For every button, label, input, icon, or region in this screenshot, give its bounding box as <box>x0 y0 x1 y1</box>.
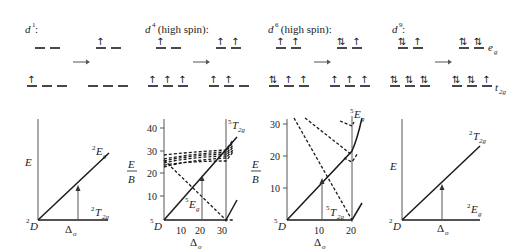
svg-text:10: 10 <box>147 191 157 202</box>
spin-up-icon: ↑ <box>156 36 164 47</box>
svg-text:D: D <box>392 220 401 232</box>
spin-up-icon: ↑ <box>291 36 299 47</box>
spin-pair-icon: ⇅ <box>398 36 406 47</box>
spin-up-icon: ↑ <box>360 74 368 85</box>
orbital-diagram-d4: ↑ ↑ ↑ ↑ ↑ ↑ ↑ ↑ <box>148 36 249 86</box>
arrow-head-icon <box>440 184 445 190</box>
svg-text:2g: 2g <box>479 137 487 145</box>
svg-text:T: T <box>330 206 337 218</box>
svg-text:10: 10 <box>270 183 280 194</box>
arrow-head-icon <box>76 185 81 191</box>
spin-pair-icon: ⇅ <box>405 74 413 85</box>
spin-up-icon: ↑ <box>148 74 156 85</box>
svg-text:30: 30 <box>217 225 227 236</box>
svg-text::: : <box>402 23 405 35</box>
svg-text:E: E <box>188 198 196 210</box>
svg-text:E: E <box>95 145 103 157</box>
spin-up-icon: ↑ <box>27 74 35 85</box>
spin-up-icon: ↑ <box>209 74 217 85</box>
config-label-d6: d 6 (high spin): <box>268 21 332 36</box>
spin-pair-icon: ⇅ <box>459 36 467 47</box>
spin-pair-icon: ⇅ <box>452 74 460 85</box>
spin-up-icon: ↑ <box>330 74 338 85</box>
energy-diagram-d9: E 2 D 2 T 2g 2 E g Δ o <box>389 119 487 237</box>
svg-text:d: d <box>25 23 31 35</box>
svg-text:D: D <box>29 220 38 232</box>
svg-text:o: o <box>73 230 77 238</box>
svg-text:10: 10 <box>176 225 186 236</box>
svg-text:g: g <box>478 210 482 218</box>
eg-label: e <box>488 41 493 53</box>
orbital-diagram-d6: ↑ ↑ ⇅ ↑ ↑ ⇅ ↑ ↑ ↑ ↑ <box>269 36 370 86</box>
svg-text:g: g <box>103 152 107 160</box>
svg-text:Δ: Δ <box>190 236 197 248</box>
spin-up-icon: ↑ <box>224 74 232 85</box>
orbital-diagram-d9: ⇅ ↑ ⇅ ⇅ ⇅ ⇅ ⇅ e g ⇅ ⇅ ↑ t 2g <box>390 36 507 96</box>
svg-text:10: 10 <box>314 225 324 236</box>
spin-up-icon: ↑ <box>352 36 360 47</box>
svg-text:Δ: Δ <box>65 223 72 235</box>
svg-text:2g: 2g <box>102 213 110 221</box>
config-label-d9: d 9 : <box>392 21 405 35</box>
svg-text:E: E <box>127 158 135 170</box>
arrow-head-icon <box>86 60 90 65</box>
spin-pair-icon: ⇅ <box>269 74 277 85</box>
spin-up-icon: ↑ <box>299 74 307 85</box>
svg-text:2g: 2g <box>238 126 246 134</box>
orbital-diagram-d1: ↑ ↑ <box>27 36 128 86</box>
svg-text:20: 20 <box>195 225 205 236</box>
energy-diagram-d6: 10 20 30 E B 10 20 Δ o 5 D 5 E g 5 T 2g <box>251 107 365 251</box>
svg-text:d: d <box>145 23 151 35</box>
svg-text:d: d <box>392 23 398 35</box>
svg-text:Δ: Δ <box>314 236 321 248</box>
svg-text:D: D <box>153 220 162 232</box>
svg-text:D: D <box>277 220 286 232</box>
svg-text:o: o <box>445 229 449 237</box>
svg-text:Δ: Δ <box>437 222 444 234</box>
arrow-head-icon <box>206 60 210 65</box>
svg-text:B: B <box>252 173 259 185</box>
svg-text:E: E <box>251 158 259 170</box>
svg-text:E: E <box>24 156 32 168</box>
svg-text:g: g <box>494 48 498 56</box>
arrow-head-icon <box>327 60 331 65</box>
spin-up-icon: ↑ <box>345 74 353 85</box>
svg-text:E: E <box>470 203 478 215</box>
svg-text:o: o <box>322 243 326 251</box>
svg-text:2g: 2g <box>499 88 507 96</box>
spin-up-icon: ↑ <box>216 36 224 47</box>
spin-up-icon: ↑ <box>284 74 292 85</box>
svg-text:g: g <box>196 205 200 213</box>
spin-pair-icon: ⇅ <box>420 74 428 85</box>
5Eg-line <box>287 118 362 220</box>
energy-diagram-d1: E 2 D 2 E g 2 T 2g Δ o <box>24 119 110 238</box>
spin-pair-icon: ⇅ <box>467 74 475 85</box>
spin-up-icon: ↑ <box>178 74 186 85</box>
spin-up-icon: ↑ <box>231 36 239 47</box>
svg-text:E: E <box>389 160 397 172</box>
spin-up-icon: ↑ <box>163 74 171 85</box>
svg-text:30: 30 <box>270 119 280 130</box>
svg-text:30: 30 <box>147 146 157 157</box>
svg-text:d: d <box>268 23 274 35</box>
arrow-head-icon <box>448 60 452 65</box>
svg-text:B: B <box>128 173 135 185</box>
svg-text:2g: 2g <box>337 213 345 221</box>
svg-text::: : <box>35 23 38 35</box>
svg-text:(high spin):: (high spin): <box>155 23 209 36</box>
spin-up-icon: ↑ <box>482 74 490 85</box>
spin-pair-icon: ⇅ <box>337 36 345 47</box>
energy-diagram-d4: 10 20 30 40 E B 10 20 30 Δ o 5 D 5 T 2g … <box>127 118 246 251</box>
svg-text:20: 20 <box>147 168 157 179</box>
spin-up-icon: ↑ <box>276 36 284 47</box>
svg-text:40: 40 <box>147 123 157 134</box>
svg-text:T: T <box>95 206 102 218</box>
spin-pair-icon: ⇅ <box>474 36 482 47</box>
spin-up-icon: ↑ <box>96 36 104 47</box>
spin-up-icon: ↑ <box>413 36 421 47</box>
svg-text:o: o <box>198 243 202 251</box>
svg-text:20: 20 <box>270 151 280 162</box>
tanabe-sugano-figure: d 1 : d 4 (high spin): d 6 (high spin): … <box>0 0 522 251</box>
svg-text:20: 20 <box>346 225 356 236</box>
svg-text:g: g <box>361 115 365 123</box>
